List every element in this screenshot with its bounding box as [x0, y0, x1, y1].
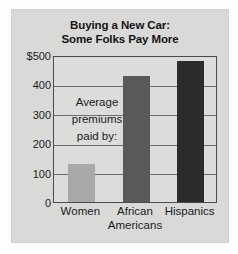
chart-figure: Buying a New Car: Some Folks Pay More 01… [0, 0, 238, 254]
x-axis-tick-label-line: Americans [102, 219, 169, 233]
y-axis-tick-label: 300 [13, 109, 51, 121]
y-axis-tick-label: 0 [13, 197, 51, 209]
x-axis-tick-labels: WomenAfricanAmericansHispanics [53, 205, 217, 245]
chart-annotation: Average premiums paid by: [59, 94, 135, 145]
y-axis-tick-labels: 0100200300400$500 [12, 56, 51, 203]
chart-title: Buying a New Car: Some Folks Pay More [12, 18, 228, 46]
chart-title-line-1: Buying a New Car: [12, 18, 228, 32]
chart-title-line-2: Some Folks Pay More [12, 32, 228, 46]
bar [177, 61, 204, 202]
bar [68, 164, 95, 202]
y-axis-tick-label: 200 [13, 138, 51, 150]
y-axis-tick-label: 400 [13, 79, 51, 91]
x-axis-tick-label-line: Hispanics [156, 205, 223, 219]
x-axis-tick-label: Hispanics [156, 205, 223, 219]
y-axis-tick-label: 100 [13, 168, 51, 180]
chart-annotation-line-2: premiums [59, 111, 135, 128]
chart-panel: Buying a New Car: Some Folks Pay More 01… [12, 10, 228, 242]
y-axis-tick-label: $500 [13, 50, 51, 62]
chart-annotation-line-3: paid by: [59, 128, 135, 145]
chart-annotation-line-1: Average [59, 94, 135, 111]
